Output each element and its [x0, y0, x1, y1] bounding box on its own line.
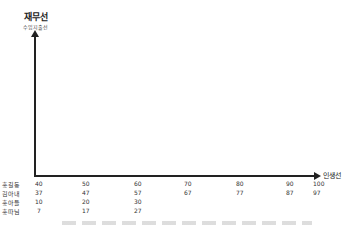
- cropped-caption-line: [62, 221, 312, 225]
- age-value: 67: [184, 189, 192, 196]
- age-value: 30: [134, 198, 142, 205]
- age-value: 87: [286, 189, 294, 196]
- age-value: 90: [286, 180, 294, 187]
- age-value: 27: [134, 207, 142, 214]
- age-value: 97: [313, 189, 321, 196]
- age-value: 17: [82, 207, 90, 214]
- row-label: 홍따님: [2, 207, 20, 216]
- age-value: 7: [37, 207, 41, 214]
- age-value: 10: [35, 198, 43, 205]
- age-value: 100: [313, 180, 324, 187]
- age-value: 77: [236, 189, 244, 196]
- x-axis-line: [34, 175, 315, 177]
- age-value: 40: [35, 180, 43, 187]
- row-label: 홍길동: [2, 180, 20, 189]
- x-axis-arrow-icon: [314, 172, 321, 180]
- age-value: 37: [35, 189, 43, 196]
- age-value: 70: [184, 180, 192, 187]
- y-axis-line: [34, 36, 36, 177]
- age-value: 20: [82, 198, 90, 205]
- y-axis-subtitle: 수입지출선: [23, 23, 48, 30]
- age-value: 60: [134, 180, 142, 187]
- row-label: 김아내: [2, 189, 20, 198]
- y-axis-title: 재무선: [24, 10, 48, 23]
- age-value: 57: [134, 189, 142, 196]
- age-value: 50: [82, 180, 90, 187]
- age-value: 80: [236, 180, 244, 187]
- x-axis-title: 인생선: [323, 170, 341, 180]
- row-label: 홍아들: [2, 198, 20, 207]
- age-value: 47: [82, 189, 90, 196]
